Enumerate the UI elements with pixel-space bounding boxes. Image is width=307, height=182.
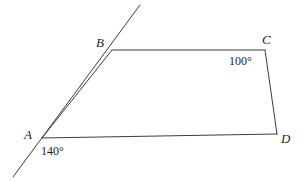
vertex-label-B: B bbox=[96, 36, 104, 49]
segment-AD bbox=[42, 134, 277, 138]
segment-CD bbox=[265, 50, 277, 134]
segment-AB bbox=[42, 50, 112, 138]
angle-measure-at-A: 140° bbox=[41, 145, 64, 157]
vertex-label-A: A bbox=[24, 128, 32, 141]
angle-measure-at-C: 100° bbox=[229, 55, 252, 67]
vertex-label-C: C bbox=[262, 33, 271, 46]
vertex-label-D: D bbox=[281, 132, 290, 145]
geometry-figure: A B C D 140° 100° bbox=[0, 0, 307, 182]
extended-line-through-A-and-B bbox=[13, 5, 140, 177]
